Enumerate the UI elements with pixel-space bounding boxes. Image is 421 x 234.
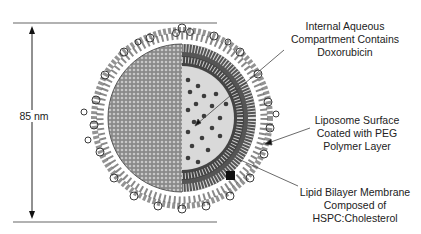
bilayer-marker [226, 171, 235, 180]
diameter-label: 85 nm [18, 110, 50, 122]
callout-line: Liposome Surface [302, 114, 412, 127]
callout-internal-aqueous: Internal Aqueous Compartment Contains Do… [280, 20, 410, 59]
callout-line: Coated with PEG [302, 127, 412, 140]
callout-line: Internal Aqueous [280, 20, 410, 33]
callout-lipid-bilayer: Lipid Bilayer Membrane Composed of HSPC:… [292, 186, 418, 225]
arrow-up-icon [29, 26, 35, 34]
leader-lipid-bilayer [236, 158, 298, 186]
callout-line: Composed of [292, 199, 418, 212]
callout-line: HSPC:Cholesterol [292, 212, 418, 225]
callout-line: Compartment Contains [280, 33, 410, 46]
callout-line: Lipid Bilayer Membrane [292, 186, 418, 199]
callout-line: Polymer Layer [302, 140, 412, 153]
callout-peg-surface: Liposome Surface Coated with PEG Polymer… [302, 114, 412, 153]
arrow-down-icon [29, 211, 35, 219]
callout-line: Doxorubicin [280, 46, 410, 59]
